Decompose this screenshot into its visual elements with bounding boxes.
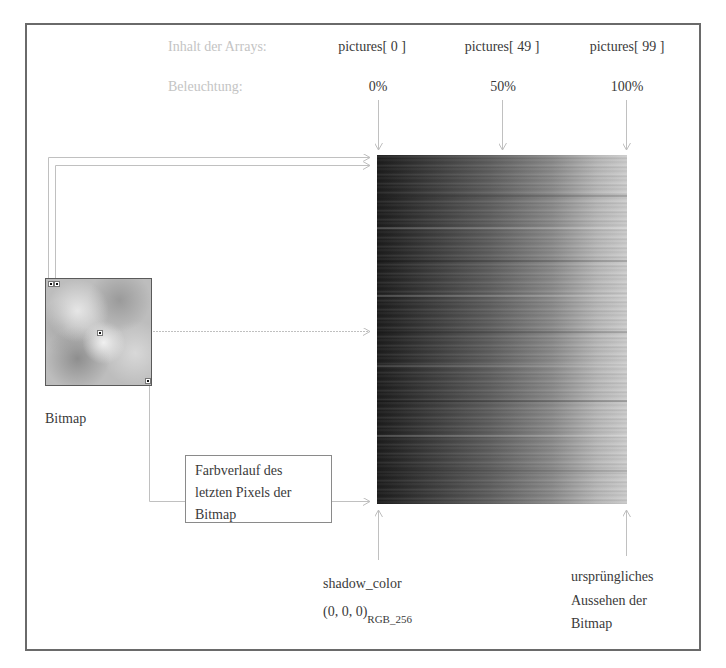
- original-look-line-1: ursprüngliches: [571, 570, 653, 584]
- arrow-top-left-pixel: [49, 158, 371, 279]
- pixel-marker-last: [145, 378, 151, 384]
- original-look-line-3: Bitmap: [571, 617, 612, 631]
- shadow-color-value: (0, 0, 0)RGB_256: [323, 605, 412, 625]
- bitmap-image: [45, 278, 152, 386]
- note-line-3: Bitmap: [195, 504, 331, 526]
- line-last-pixel: [150, 386, 186, 502]
- shadow-color-label: shadow_color: [323, 577, 402, 591]
- pixel-marker-second: [54, 281, 60, 287]
- rgb-subscript: RGB_256: [367, 613, 412, 625]
- bitmap-label: Bitmap: [45, 412, 86, 426]
- note-line-1: Farbverlauf des: [195, 460, 331, 482]
- shadow-color-rgb: (0, 0, 0): [323, 604, 367, 619]
- arrow-top-pixel-2: [56, 166, 371, 279]
- note-line-2: letzten Pixels der: [195, 482, 331, 504]
- note-box-last-pixel-gradient: Farbverlauf des letzten Pixels der Bitma…: [185, 455, 332, 523]
- original-look-line-2: Aussehen der: [571, 594, 647, 608]
- pixel-marker-center: [97, 330, 103, 336]
